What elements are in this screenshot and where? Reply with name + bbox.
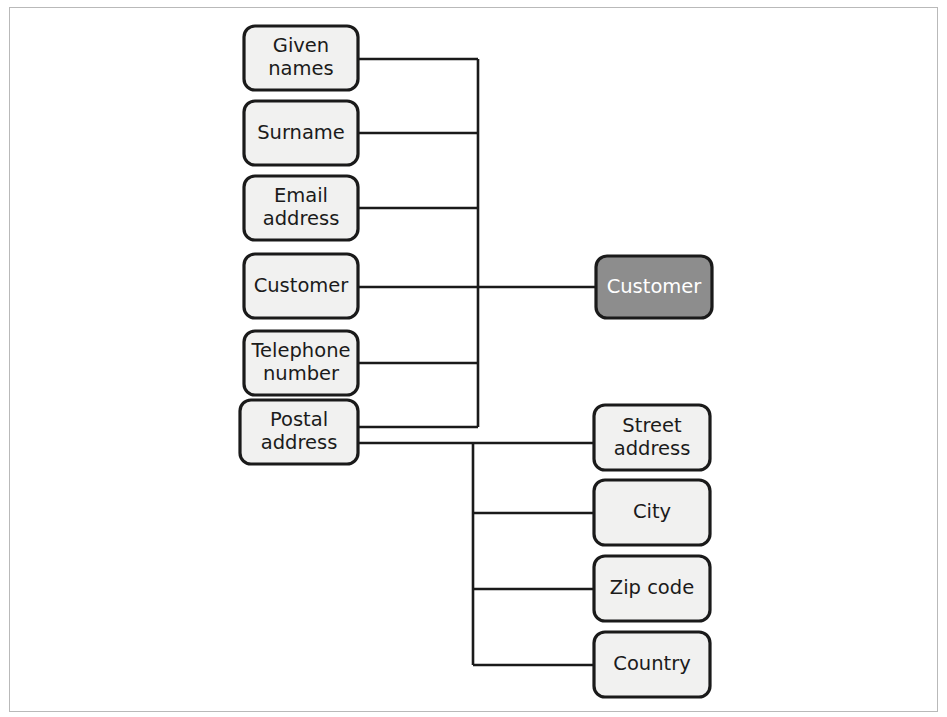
node-label-surname: Surname (257, 121, 345, 144)
node-label-street-address: Street (622, 414, 682, 437)
node-customer-attr[interactable]: Customer (244, 254, 358, 318)
node-label-email-address: address (263, 207, 340, 230)
node-given-names[interactable]: Givennames (244, 26, 358, 90)
node-label-postal-address: address (261, 431, 338, 454)
node-country[interactable]: Country (594, 632, 710, 697)
node-surname[interactable]: Surname (244, 101, 358, 165)
node-label-given-names: names (268, 57, 333, 80)
node-zip-code[interactable]: Zip code (594, 556, 710, 621)
node-telephone-number[interactable]: Telephonenumber (244, 331, 358, 395)
node-label-given-names: Given (273, 34, 329, 57)
node-label-customer-attr: Customer (254, 274, 350, 297)
node-label-postal-address: Postal (270, 408, 328, 431)
node-layer: GivennamesSurnameEmailaddressCustomerTel… (240, 26, 712, 697)
node-label-telephone-number: number (263, 362, 340, 385)
node-postal-address[interactable]: Postaladdress (240, 400, 358, 464)
node-label-country: Country (613, 652, 690, 675)
node-street-address[interactable]: Streetaddress (594, 405, 710, 470)
node-label-zip-code: Zip code (610, 576, 694, 599)
node-label-city: City (633, 500, 671, 523)
node-label-telephone-number: Telephone (250, 339, 350, 362)
node-customer-root[interactable]: Customer (596, 256, 712, 318)
node-label-street-address: address (614, 437, 691, 460)
node-label-email-address: Email (274, 184, 328, 207)
node-city[interactable]: City (594, 480, 710, 545)
connector-layer (358, 59, 596, 665)
diagram-canvas: GivennamesSurnameEmailaddressCustomerTel… (0, 0, 947, 717)
node-email-address[interactable]: Emailaddress (244, 176, 358, 240)
node-label-customer-root: Customer (607, 275, 703, 298)
